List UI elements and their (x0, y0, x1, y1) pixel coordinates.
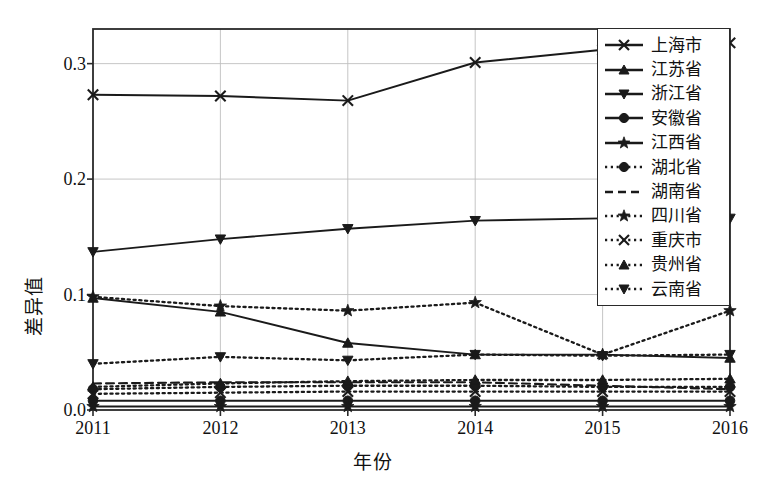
series-云南省 (88, 350, 735, 369)
chart-legend: 上海市江苏省浙江省安徽省江西省湖北省湖南省四川省重庆市贵州省云南省 (597, 28, 730, 306)
legend-item-重庆市[interactable]: 重庆市 (602, 228, 726, 252)
marker-star (618, 210, 630, 221)
series-line (93, 355, 730, 364)
legend-marker-triangle-up-icon (602, 254, 646, 276)
legend-item-江苏省[interactable]: 江苏省 (602, 57, 726, 81)
legend-item-湖北省[interactable]: 湖北省 (602, 155, 726, 179)
x-axis-tick-label: 2014 (440, 418, 510, 439)
legend-item-贵州省[interactable]: 贵州省 (602, 253, 726, 277)
marker-circle (619, 163, 628, 172)
x-axis-tick-label: 2016 (695, 418, 760, 439)
marker-triangle-up (619, 260, 629, 269)
legend-marker-star-icon (602, 205, 646, 227)
legend-marker-circle-icon (602, 107, 646, 129)
marker-circle (619, 114, 628, 123)
legend-item-安徽省[interactable]: 安徽省 (602, 106, 726, 130)
y-axis-tick-labels: 0.00.10.20.3 (34, 0, 86, 486)
legend-marker-star-icon (602, 132, 646, 154)
y-axis-tick-label: 0.3 (40, 55, 86, 73)
legend-marker-x-icon (602, 229, 646, 251)
legend-item-湖南省[interactable]: 湖南省 (602, 179, 726, 203)
marker-triangle-down (88, 360, 98, 369)
y-axis-tick-label: 0.0 (40, 401, 86, 419)
legend-label: 云南省 (646, 281, 702, 298)
legend-label: 上海市 (646, 37, 702, 54)
legend-marker-triangle-down-icon (602, 83, 646, 105)
legend-item-上海市[interactable]: 上海市 (602, 33, 726, 57)
x-axis-tick-label: 2011 (58, 418, 128, 439)
marker-star (618, 137, 630, 148)
legend-label: 湖北省 (646, 159, 702, 176)
chart-figure: 差异值 年份 0.00.10.20.3 20112012201320142015… (0, 0, 760, 486)
legend-item-浙江省[interactable]: 浙江省 (602, 82, 726, 106)
marker-triangle-down (619, 285, 629, 294)
series-安徽省 (88, 396, 735, 406)
legend-label: 安徽省 (646, 110, 702, 127)
x-axis-title: 年份 (0, 447, 760, 474)
legend-marker-circle-icon (602, 156, 646, 178)
legend-item-江西省[interactable]: 江西省 (602, 131, 726, 155)
legend-label: 贵州省 (646, 256, 702, 273)
legend-marker-x-icon (602, 34, 646, 56)
y-axis-tick-label: 0.1 (40, 286, 86, 304)
x-axis-title-text: 年份 (353, 447, 393, 474)
legend-marker-triangle-up-icon (602, 59, 646, 81)
legend-label: 重庆市 (646, 232, 702, 249)
legend-marker-triangle-down-icon (602, 278, 646, 300)
x-axis-tick-label: 2013 (313, 418, 383, 439)
y-axis-tick-label: 0.2 (40, 170, 86, 188)
legend-label: 浙江省 (646, 85, 702, 102)
legend-label: 江西省 (646, 134, 702, 151)
legend-label: 湖南省 (646, 183, 702, 200)
x-axis-tick-label: 2015 (568, 418, 638, 439)
legend-item-四川省[interactable]: 四川省 (602, 204, 726, 228)
legend-label: 四川省 (646, 207, 702, 224)
series-line (93, 392, 730, 394)
legend-label: 江苏省 (646, 61, 702, 78)
legend-item-云南省[interactable]: 云南省 (602, 277, 726, 301)
legend-marker-none-icon (602, 181, 646, 203)
x-axis-tick-label: 2012 (185, 418, 255, 439)
marker-x (619, 235, 629, 245)
